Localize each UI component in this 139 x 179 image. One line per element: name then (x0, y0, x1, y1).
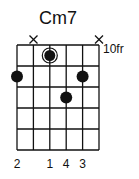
chord-diagram: Cm7 10fr 2 1 4 3 (0, 0, 139, 179)
finger-dot-string-5 (77, 71, 89, 83)
finger-dot-string-1 (11, 71, 23, 83)
finger-label-string-5: 3 (79, 157, 86, 171)
finger-label-string-4: 4 (63, 157, 70, 171)
root-note-marker-icon (42, 48, 57, 63)
chord-name: Cm7 (39, 8, 77, 28)
muted-string-2-icon (30, 36, 38, 44)
fretboard-grid (17, 45, 99, 150)
fret-position-label: 10fr (103, 42, 124, 56)
finger-label-string-3: 1 (46, 157, 53, 171)
muted-string-6-icon (95, 36, 103, 44)
finger-dot-string-4 (60, 92, 72, 104)
finger-label-string-1: 2 (14, 157, 21, 171)
